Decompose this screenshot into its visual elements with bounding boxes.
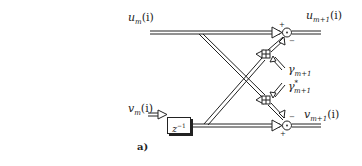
- bottom-multiplier: [262, 96, 270, 104]
- top-sum-node: [283, 28, 292, 37]
- output-v-label: vm+1(i): [304, 109, 339, 123]
- top-sum-plus-sign: +: [279, 22, 285, 29]
- top-sum-minus-sign: −: [289, 38, 295, 45]
- arrowheads: [256, 27, 285, 131]
- input-u-label: um(i): [128, 12, 154, 26]
- output-u-label: um+1(i): [306, 10, 342, 24]
- delay-block: z−1: [167, 117, 191, 134]
- cross-connections: [199, 34, 285, 125]
- input-arrow: [158, 110, 167, 119]
- gamma-label: γm+1: [288, 64, 312, 78]
- figure-caption: a): [137, 141, 148, 152]
- top-multiplier: [262, 50, 270, 58]
- gamma-conj-label: γ*m+1: [288, 80, 311, 95]
- bottom-sum-node: [283, 121, 292, 130]
- input-v-label: vm(i): [128, 103, 153, 117]
- bottom-sum-minus-sign: −: [289, 114, 295, 121]
- bottom-sum-plus-sign: +: [280, 131, 286, 138]
- top-signal-path: [150, 31, 321, 34]
